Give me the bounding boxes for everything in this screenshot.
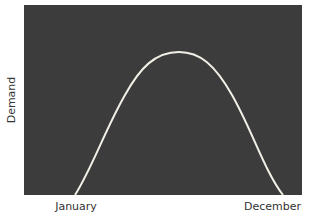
x-tick-january: January xyxy=(54,200,97,213)
y-axis-label: Demand xyxy=(5,77,18,124)
plot-area xyxy=(24,5,302,195)
x-tick-december: December xyxy=(244,200,302,213)
demand-chart: Demand January December xyxy=(0,0,309,221)
